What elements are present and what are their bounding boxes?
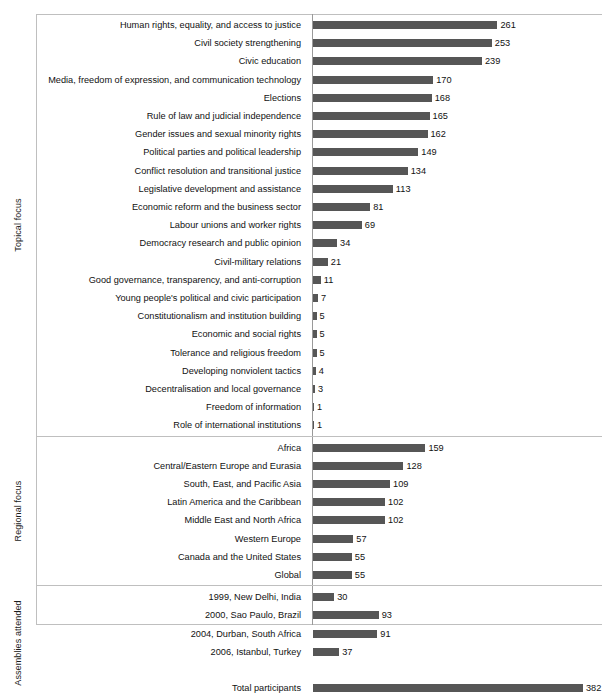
bar bbox=[313, 312, 317, 320]
bar-row: Freedom of information1 bbox=[0, 398, 616, 416]
bar-category-label: Role of international institutions bbox=[173, 416, 305, 434]
bar-row bbox=[0, 661, 616, 679]
bar-row: Economic and social rights5 bbox=[0, 325, 616, 343]
bar-value-label: 3 bbox=[318, 380, 323, 398]
bar-category-label: Canada and the United States bbox=[178, 548, 305, 566]
bar-category-label: Good governance, transparency, and anti-… bbox=[89, 271, 305, 289]
bar-value-label: 253 bbox=[495, 34, 510, 52]
bar-row: Global55 bbox=[0, 566, 616, 584]
bar bbox=[313, 421, 314, 429]
bar-category-label: 2004, Durban, South Africa bbox=[191, 625, 305, 643]
bar-value-label: 1 bbox=[317, 398, 322, 416]
bar-value-label: 11 bbox=[324, 271, 334, 289]
bar-value-label: 239 bbox=[485, 52, 500, 70]
bar-row: 2004, Durban, South Africa91 bbox=[0, 625, 616, 643]
bar-category-label: Democracy research and public opinion bbox=[140, 234, 305, 252]
bar-row: Gender issues and sexual minority rights… bbox=[0, 125, 616, 143]
bar-category-label: 1999, New Delhi, India bbox=[209, 588, 305, 606]
bar-row: Central/Eastern Europe and Eurasia128 bbox=[0, 457, 616, 475]
bar-value-label: 5 bbox=[320, 344, 325, 362]
bar-category-label: Media, freedom of expression, and commun… bbox=[48, 71, 305, 89]
bar bbox=[313, 258, 328, 266]
bar-value-label: 165 bbox=[433, 107, 448, 125]
bar-row: Developing nonviolent tactics4 bbox=[0, 362, 616, 380]
bar bbox=[313, 571, 352, 579]
bar bbox=[313, 462, 403, 470]
bar-row: Conflict resolution and transitional jus… bbox=[0, 162, 616, 180]
bar-row: Elections168 bbox=[0, 89, 616, 107]
bar bbox=[313, 553, 352, 561]
bar-value-label: 69 bbox=[365, 216, 375, 234]
bar-value-label: 7 bbox=[321, 289, 326, 307]
bar-row: Democracy research and public opinion34 bbox=[0, 234, 616, 252]
bar bbox=[313, 185, 393, 193]
bar bbox=[313, 203, 370, 211]
bar-category-label: Total participants bbox=[232, 679, 305, 697]
bar-category-label: Civil society strengthening bbox=[194, 34, 305, 52]
bar-category-label: 2006, Istanbul, Turkey bbox=[211, 643, 305, 661]
bar-category-label: Economic and social rights bbox=[192, 325, 305, 343]
bar-row: Western Europe57 bbox=[0, 530, 616, 548]
bar-category-label: Conflict resolution and transitional jus… bbox=[135, 162, 305, 180]
bar-category-label: Civic education bbox=[239, 52, 305, 70]
bar-value-label: 102 bbox=[388, 511, 403, 529]
bar-row: Good governance, transparency, and anti-… bbox=[0, 271, 616, 289]
bar-value-label: 382 bbox=[586, 679, 601, 697]
bar-value-label: 1 bbox=[317, 416, 322, 434]
bar bbox=[313, 630, 377, 638]
bar bbox=[313, 112, 430, 120]
bar bbox=[313, 221, 362, 229]
bar-row: Middle East and North Africa102 bbox=[0, 511, 616, 529]
bar-category-label: Western Europe bbox=[235, 530, 305, 548]
bar-category-label: Constitutionalism and institution buildi… bbox=[138, 307, 305, 325]
bar-value-label: 170 bbox=[436, 71, 451, 89]
bar-category-label: Central/Eastern Europe and Eurasia bbox=[153, 457, 305, 475]
bar-row: Civil-military relations21 bbox=[0, 253, 616, 271]
bar bbox=[313, 294, 318, 302]
bar-row: Total participants382 bbox=[0, 679, 616, 697]
bar bbox=[313, 167, 408, 175]
bar-value-label: 102 bbox=[388, 493, 403, 511]
bar-category-label: Human rights, equality, and access to ju… bbox=[120, 16, 305, 34]
bar-value-label: 21 bbox=[331, 253, 341, 271]
bar-row: 2006, Istanbul, Turkey37 bbox=[0, 643, 616, 661]
bar-row: Labour unions and worker rights69 bbox=[0, 216, 616, 234]
group-divider bbox=[36, 585, 602, 586]
bar bbox=[313, 593, 334, 601]
group-axis-label-text: Regional focus bbox=[13, 481, 23, 542]
bar-category-label: Middle East and North Africa bbox=[185, 511, 305, 529]
bar-row: Role of international institutions1 bbox=[0, 416, 616, 434]
bar bbox=[313, 276, 321, 284]
bar-category-label: South, East, and Pacific Asia bbox=[184, 475, 305, 493]
bar bbox=[313, 444, 425, 452]
bar-value-label: 113 bbox=[396, 180, 411, 198]
bar bbox=[313, 21, 497, 29]
bar-row: Constitutionalism and institution buildi… bbox=[0, 307, 616, 325]
bar-category-label: Labour unions and worker rights bbox=[170, 216, 305, 234]
bar-category-label: Developing nonviolent tactics bbox=[182, 362, 305, 380]
bar bbox=[313, 648, 339, 656]
bar-value-label: 55 bbox=[355, 548, 365, 566]
bar bbox=[313, 385, 315, 393]
bar-row: Latin America and the Caribbean102 bbox=[0, 493, 616, 511]
bar-row: Media, freedom of expression, and commun… bbox=[0, 71, 616, 89]
bar-category-label: Freedom of information bbox=[206, 398, 305, 416]
bar-row: Rule of law and judicial independence165 bbox=[0, 107, 616, 125]
group-axis-label: Regional focus bbox=[0, 439, 36, 585]
bar bbox=[313, 76, 433, 84]
bar-value-label: 109 bbox=[393, 475, 408, 493]
bar bbox=[313, 535, 353, 543]
bar bbox=[313, 611, 379, 619]
bar-value-label: 162 bbox=[431, 125, 446, 143]
bar-row: Civic education239 bbox=[0, 52, 616, 70]
bar-row: Civil society strengthening253 bbox=[0, 34, 616, 52]
group-axis-label: Topical focus bbox=[0, 16, 36, 435]
bar-row: Human rights, equality, and access to ju… bbox=[0, 16, 616, 34]
bar bbox=[313, 684, 583, 692]
bar-value-label: 5 bbox=[320, 307, 325, 325]
bar-row: 2000, Sao Paulo, Brazil93 bbox=[0, 606, 616, 624]
bar bbox=[313, 94, 432, 102]
bar-category-label: Legislative development and assistance bbox=[139, 180, 305, 198]
bar bbox=[313, 57, 482, 65]
bar-category-label: Political parties and political leadersh… bbox=[143, 143, 305, 161]
